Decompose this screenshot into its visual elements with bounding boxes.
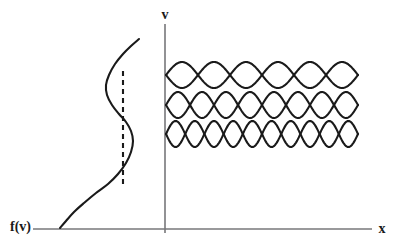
distribution-label: f(v) xyxy=(10,219,31,235)
v-axis-label: v xyxy=(162,7,169,22)
wave-mode-3 xyxy=(166,121,358,147)
standing-wave-modes-group xyxy=(166,62,358,147)
wave-lobe-envelope xyxy=(166,121,358,147)
plasma-instability-diagram: v x f(v) xyxy=(0,0,398,249)
wave-lobe-envelope xyxy=(166,62,358,88)
distribution-group xyxy=(60,39,139,228)
wave-mode-2 xyxy=(166,92,358,118)
x-axis-label: x xyxy=(379,221,386,236)
wave-mode-1 xyxy=(166,62,358,88)
distribution-curve xyxy=(60,39,139,228)
figure-canvas: v x f(v) xyxy=(0,0,398,249)
